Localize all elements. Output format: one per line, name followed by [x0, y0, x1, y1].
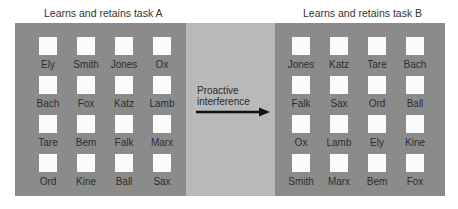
word-label: Ball [116, 176, 133, 187]
word-card: Lamb [320, 115, 358, 154]
white-square [368, 154, 386, 172]
word-label: Ely [41, 59, 55, 70]
white-square [39, 154, 57, 172]
white-square [368, 37, 386, 55]
word-card: Kine [396, 115, 434, 154]
word-label: Bem [76, 137, 97, 148]
word-label: Katz [329, 59, 349, 70]
word-label: Jones [288, 59, 315, 70]
word-label: Marx [328, 176, 350, 187]
word-card: Marx [320, 154, 358, 193]
task-a-title: Learns and retains task A [44, 7, 163, 19]
white-square [153, 154, 171, 172]
word-card: Ox [143, 37, 181, 76]
word-card: Smith [67, 37, 105, 76]
word-label: Ely [370, 137, 384, 148]
white-square [77, 115, 95, 133]
white-square [153, 76, 171, 94]
white-square [406, 37, 424, 55]
word-card: Marx [143, 115, 181, 154]
word-label: Fox [78, 98, 95, 109]
word-card: Sax [320, 76, 358, 115]
word-label: Sax [153, 176, 170, 187]
word-card: Bem [67, 115, 105, 154]
task-b-grid: JonesKatzTareBachFalkSaxOrdBallOxLambEly… [282, 37, 435, 193]
word-label: Sax [330, 98, 347, 109]
label-line-1: Proactive [197, 85, 250, 96]
white-square [368, 115, 386, 133]
white-square [77, 37, 95, 55]
word-label: Lamb [149, 98, 174, 109]
task-a-panel: ElySmithJonesOxBachFoxKatzLambTareBemFal… [15, 23, 186, 196]
word-label: Tare [367, 59, 386, 70]
word-card: Falk [282, 76, 320, 115]
word-card: Katz [105, 76, 143, 115]
word-card: Fox [396, 154, 434, 193]
word-card: Ball [396, 76, 434, 115]
word-label: Jones [111, 59, 138, 70]
word-card: Ord [358, 76, 396, 115]
word-card: Tare [358, 37, 396, 76]
word-card: Smith [282, 154, 320, 193]
white-square [406, 115, 424, 133]
word-label: Ord [40, 176, 57, 187]
proactive-interference-label: Proactive interference [197, 85, 250, 107]
word-card: Ely [29, 37, 67, 76]
word-label: Ox [156, 59, 169, 70]
white-square [39, 37, 57, 55]
white-square [39, 76, 57, 94]
word-label: Bem [367, 176, 388, 187]
white-square [77, 76, 95, 94]
word-card: Ely [358, 115, 396, 154]
word-label: Lamb [326, 137, 351, 148]
word-label: Katz [114, 98, 134, 109]
white-square [292, 115, 310, 133]
word-label: Fox [407, 176, 424, 187]
right-arrow-icon [195, 107, 271, 117]
white-square [292, 76, 310, 94]
word-card: Bach [396, 37, 434, 76]
white-square [77, 154, 95, 172]
word-label: Tare [38, 137, 57, 148]
white-square [406, 154, 424, 172]
white-square [153, 37, 171, 55]
white-square [115, 154, 133, 172]
white-square [115, 76, 133, 94]
task-a-grid: ElySmithJonesOxBachFoxKatzLambTareBemFal… [29, 37, 176, 193]
word-card: Fox [67, 76, 105, 115]
word-card: Ord [29, 154, 67, 193]
white-square [330, 76, 348, 94]
word-label: Falk [292, 98, 311, 109]
word-card: Katz [320, 37, 358, 76]
word-card: Jones [282, 37, 320, 76]
word-label: Falk [115, 137, 134, 148]
word-card: Falk [105, 115, 143, 154]
word-card: Sax [143, 154, 181, 193]
white-square [368, 76, 386, 94]
word-card: Kine [67, 154, 105, 193]
white-square [292, 37, 310, 55]
white-square [115, 115, 133, 133]
word-label: Ball [407, 98, 424, 109]
label-line-2: interference [197, 96, 250, 107]
white-square [330, 115, 348, 133]
white-square [39, 115, 57, 133]
white-square [153, 115, 171, 133]
task-b-title: Learns and retains task B [303, 7, 422, 19]
word-card: Jones [105, 37, 143, 76]
white-square [115, 37, 133, 55]
task-b-panel: JonesKatzTareBachFalkSaxOrdBallOxLambEly… [275, 23, 445, 196]
white-square [330, 37, 348, 55]
interference-band: Proactive interference [186, 23, 275, 196]
arrow-head [259, 108, 270, 117]
word-label: Kine [76, 176, 96, 187]
word-label: Bach [404, 59, 427, 70]
word-label: Ord [369, 98, 386, 109]
word-card: Bem [358, 154, 396, 193]
white-square [330, 154, 348, 172]
word-label: Marx [151, 137, 173, 148]
word-label: Smith [73, 59, 99, 70]
word-card: Ball [105, 154, 143, 193]
white-square [406, 76, 424, 94]
word-label: Bach [37, 98, 60, 109]
